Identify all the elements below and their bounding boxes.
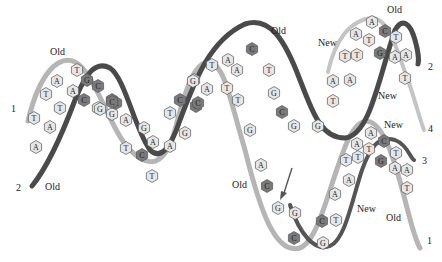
nucleotide-g: G: [94, 103, 105, 116]
base-letter: T: [32, 114, 37, 123]
label-old-top-mid: Old: [271, 25, 286, 36]
nucleotide-t: T: [120, 142, 131, 155]
base-letter: A: [347, 76, 353, 85]
base-letter: G: [275, 204, 281, 213]
base-letter: G: [315, 122, 321, 131]
base-letter: A: [330, 77, 336, 86]
base-letter: G: [291, 122, 297, 131]
nucleotide-c: C: [78, 94, 89, 107]
nucleotide-t: T: [330, 214, 341, 227]
nucleotide-a: A: [350, 28, 361, 41]
base-letter: C: [264, 182, 269, 191]
nucleotide-g: G: [81, 74, 92, 87]
nucleotide-a: A: [366, 16, 377, 29]
nucleotide-c: C: [192, 97, 203, 110]
nucleotide-t: T: [339, 50, 350, 63]
nucleotide-t: T: [221, 82, 232, 95]
strand-1-left: 1: [11, 103, 16, 114]
base-letter: A: [167, 142, 173, 151]
base-letter: A: [392, 164, 398, 173]
nucleotide-g: G: [312, 120, 323, 133]
nucleotide-t: T: [40, 88, 51, 101]
nucleotide-g: G: [289, 207, 300, 220]
base-letter: C: [279, 108, 284, 117]
base-letter: T: [403, 74, 408, 83]
nucleotide-g: G: [244, 124, 255, 137]
base-letter: T: [405, 184, 410, 193]
nucleotide-c: C: [92, 80, 103, 93]
base-letter: A: [225, 56, 231, 65]
base-letter: A: [123, 116, 129, 125]
base-letter: T: [355, 51, 360, 60]
base-letter: A: [70, 87, 76, 96]
nucleotide-t: T: [363, 34, 374, 47]
nucleotide-t: T: [390, 147, 401, 160]
nucleotide-a: A: [329, 188, 340, 201]
strand-3-right: 3: [422, 155, 427, 166]
strand-2-left: 2: [16, 182, 21, 193]
nucleotide-t: T: [327, 95, 338, 108]
base-letter: C: [319, 217, 324, 226]
nucleotide-g: G: [375, 155, 386, 168]
base-letter: A: [403, 51, 409, 60]
base-letter: T: [150, 172, 155, 181]
base-letter: G: [247, 126, 253, 135]
nucleotide-a: A: [327, 75, 338, 88]
base-letter: T: [367, 36, 372, 45]
base-letter: C: [109, 98, 114, 107]
base-letter: A: [234, 66, 240, 75]
base-letter: A: [369, 18, 375, 27]
nucleotide-c: C: [174, 94, 185, 107]
base-letter: T: [58, 104, 63, 113]
base-letter: T: [225, 84, 230, 93]
dna-replication-diagram: TATAGCTCGCTAAGCGCATGCATTAGCCGATCGAATTCTG…: [0, 0, 442, 262]
base-letter: C: [95, 82, 100, 91]
nucleotide-a: A: [51, 75, 62, 88]
base-letter: T: [236, 96, 241, 105]
nucleotide-c: C: [106, 96, 117, 109]
nucleotide-t: T: [206, 59, 217, 72]
strand-1-right: 1: [427, 235, 432, 246]
nucleotide-a: A: [231, 64, 242, 77]
nucleotide-a: A: [344, 74, 355, 87]
diagram-canvas: TATAGCTCGCTAAGCGCATGCATTAGCCGATCGAATTCTG…: [0, 0, 442, 262]
base-letter: A: [33, 143, 39, 152]
nucleotide-a: A: [67, 85, 78, 98]
base-letter: A: [204, 85, 210, 94]
base-letter: C: [139, 151, 144, 160]
nucleotide-g: G: [272, 202, 283, 215]
base-letter: T: [124, 144, 129, 153]
nucleotide-a: A: [365, 127, 376, 140]
base-letter: T: [267, 66, 272, 75]
base-letter: A: [404, 166, 410, 175]
label-new-right-mid: New: [378, 90, 398, 101]
base-letter: G: [320, 239, 326, 248]
base-letter: T: [367, 145, 372, 154]
base-letter: A: [47, 123, 53, 132]
nucleotide-g: G: [374, 47, 385, 60]
base-letter: C: [81, 96, 86, 105]
base-letter: G: [84, 76, 90, 85]
base-letter: G: [292, 209, 298, 218]
nucleotide-a: A: [389, 51, 400, 64]
base-letter: A: [392, 53, 398, 62]
nucleotide-t: T: [146, 170, 157, 183]
nucleotide-g: G: [138, 122, 149, 135]
nucleotide-a: A: [30, 141, 41, 154]
base-letter: T: [343, 52, 348, 61]
base-letter: A: [54, 77, 60, 86]
nucleotide-t: T: [363, 143, 374, 156]
nucleotide-c: C: [136, 149, 147, 162]
label-new-right-upper4: New: [384, 119, 404, 130]
nucleotide-c: C: [288, 232, 299, 245]
base-letter: A: [332, 190, 338, 199]
strand-2-right: 2: [428, 61, 433, 72]
base-letter: A: [354, 140, 360, 149]
base-letter: A: [346, 176, 352, 185]
base-letter: T: [334, 216, 339, 225]
nucleotide-g: G: [288, 120, 299, 133]
nucleotide-t: T: [28, 112, 39, 125]
nucleotide-g: G: [179, 127, 190, 140]
nucleotide-a: A: [147, 136, 158, 149]
nucleotide-a: A: [255, 159, 266, 172]
